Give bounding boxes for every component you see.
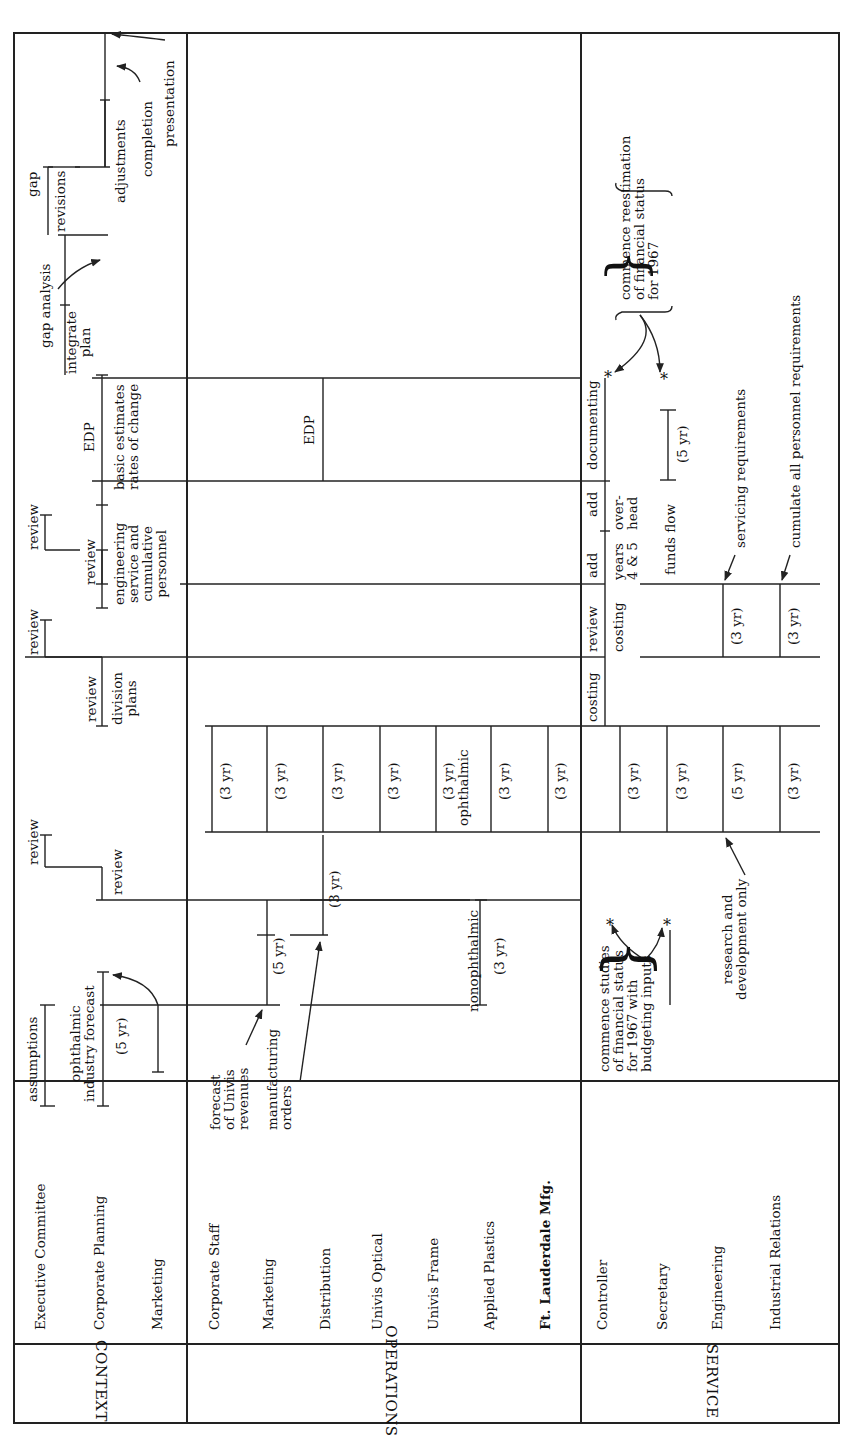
label-review: review (26, 609, 40, 655)
label-forecast-revenues: forecast of Univis revenues (208, 1068, 250, 1130)
label-engineering-service: engineering service and cumulative perso… (112, 523, 168, 605)
label-gap-analysis: gap analysis (38, 263, 52, 348)
label-division-plans: division plans (110, 672, 138, 725)
label-five-yr: (5 yr) (114, 1018, 128, 1056)
label-presentation: presentation (162, 60, 176, 147)
label-servicing-requirements: servicing requirements (733, 389, 747, 548)
label-three-yr-cell: (3 yr) (386, 763, 400, 801)
label-costing: costing (611, 602, 625, 652)
label-commence-studies: commence studies of financial status for… (597, 945, 653, 1072)
label-commence-reestimation: commence reestimation of financial statu… (618, 136, 660, 300)
asterisk: * (663, 918, 671, 934)
label-review: review (26, 504, 40, 550)
asterisk: * (604, 370, 612, 386)
label-three-yr-cell: (3 yr) (441, 763, 455, 801)
label-edp: EDP (82, 422, 96, 452)
label-add: add (585, 492, 599, 517)
label-adjustments: adjustments (113, 119, 127, 203)
label-costing: costing (585, 672, 599, 722)
label-review: review (84, 676, 98, 722)
label-assumptions: assumptions (25, 1016, 39, 1102)
label-three-yr-cell: (3 yr) (553, 763, 567, 801)
label-review: review (83, 539, 97, 585)
label-basic-estimates: basic estimates rates of change (112, 384, 140, 490)
label-three-yr: (3 yr) (492, 938, 506, 976)
label-ophthalmic: ophthalmic (456, 749, 470, 826)
label-three-yr: (3 yr) (729, 608, 743, 646)
label-manufacturing-orders: manufacturing orders (265, 1029, 293, 1130)
label-three-yr-cell: (3 yr) (218, 763, 232, 801)
label-five-yr: (5 yr) (675, 426, 689, 464)
label-overhead: over- head (611, 495, 639, 530)
label-three-yr-cell: (3 yr) (330, 763, 344, 801)
label-funds-flow: funds flow (663, 504, 677, 575)
label-review: review (585, 606, 599, 652)
label-review: review (26, 819, 40, 865)
label-nonophthalmic: nonophthalmic (466, 910, 480, 1012)
asterisk: * (660, 372, 668, 388)
label-three-yr: (3 yr) (327, 871, 341, 909)
label-add: add (585, 553, 599, 578)
label-review: review (110, 849, 124, 895)
label-completion: completion (140, 101, 154, 177)
label-cell: (3 yr) (626, 763, 640, 801)
label-gap: gap (25, 172, 39, 197)
label-research-development: research and development only (720, 879, 748, 1000)
label-three-yr: (3 yr) (786, 608, 800, 646)
label-industry-forecast: ophthalmic industry forecast (68, 985, 96, 1102)
label-five-yr: (5 yr) (271, 938, 285, 976)
label-cell: (3 yr) (786, 763, 800, 801)
label-three-yr-cell: (3 yr) (497, 763, 511, 801)
label-cumulate-requirements: cumulate all personnel requirements (788, 295, 802, 548)
label-cell: (3 yr) (674, 763, 688, 801)
label-integrate-plan: integrate plan (64, 311, 92, 374)
label-three-yr-cell: (3 yr) (273, 763, 287, 801)
asterisk: * (606, 918, 614, 934)
label-years-4-5: years 4 & 5 (611, 542, 639, 580)
label-revisions: revisions (53, 171, 67, 232)
label-cell: (5 yr) (730, 763, 744, 801)
label-documenting: documenting (585, 380, 599, 470)
label-edp: EDP (302, 415, 316, 445)
